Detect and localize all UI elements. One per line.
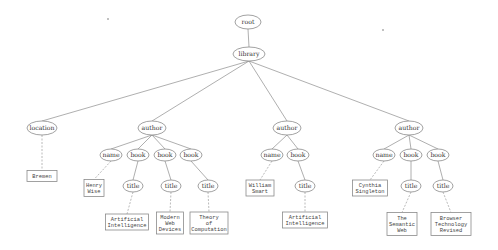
edge-author2-a2_book [287,135,298,149]
node-label: book [183,151,198,158]
value-node-v_a1_title3: TheoryofComputation [190,212,228,234]
edge-a3_book2-a3_title2 [438,161,443,180]
node-label: author [399,124,420,131]
node-label: book [290,151,305,158]
element-node-a3_name: name [373,149,395,161]
node-label: title [405,182,418,189]
node-label: library [238,50,260,58]
node-label: author [142,124,163,131]
edge-author1-a1_book3 [152,135,191,149]
element-node-a1_name: name [100,149,122,161]
value-text-line: Wise [88,189,101,195]
element-node-root: root [235,15,261,29]
edge-library-author3 [249,61,409,121]
node-label: title [165,182,178,189]
element-node-a3_title2: title [433,180,453,192]
value-node-v_a1_title2: ModernWebDevices [157,212,184,234]
value-edge-a1_title1-v_a1_title1 [127,192,133,214]
value-node-v_a3_title1: TheSemanticWeb [387,213,417,236]
value-text-line: William [249,183,272,189]
speck-dot [382,29,383,30]
value-text-line: Computation [191,227,227,233]
value-text-line: Smart [252,189,268,195]
edge-a1_book1-a1_title1 [133,161,138,180]
value-node-v_a2_name: WilliamSmart [246,180,274,196]
value-text-line: Technology [435,222,468,228]
element-node-a3_book2: book [427,149,449,161]
value-node-v_a1_name: HenryWise [84,180,104,197]
value-text-line: Semantic [389,222,415,228]
value-edge-a3_name-v_a3_name [370,161,384,180]
edge-a2_book-a2_title [298,161,305,180]
edge-root-library [248,29,249,47]
value-text-line: Web [397,228,407,234]
element-node-a2_title: title [295,180,315,192]
value-text-line: Bremen [32,174,51,180]
node-label: title [127,182,140,189]
element-node-author2: author [273,121,301,135]
value-text-line: Henry [86,183,103,189]
node-label: title [437,182,450,189]
value-node-v_a1_title1: ArtificialIntelligence [106,214,149,230]
element-node-library: library [233,47,265,61]
edge-author3-a3_book1 [409,135,411,149]
element-node-a1_book1: book [127,149,149,161]
element-node-location: location [27,121,57,135]
value-edge-a3_title1-v_a3_title1 [402,192,411,213]
value-text-line: Intelligence [108,223,147,229]
value-node-v_location: Bremen [27,171,57,182]
value-text-line: Artificial [289,215,321,221]
node-label: title [299,182,312,189]
element-node-a2_name: name [261,149,283,161]
value-text-line: Modern [160,215,179,221]
value-edge-a3_title2-v_a3_title2 [443,192,451,213]
element-node-a1_book3: book [180,149,202,161]
speck-dot [107,18,108,19]
edge-a1_book2-a1_title2 [165,161,171,180]
tree-svg: rootlibrarylocationauthorauthorauthornam… [0,0,498,250]
edge-library-location [42,61,249,121]
node-label: book [430,151,445,158]
value-text-line: of [206,221,212,227]
node-label: name [102,151,120,158]
edge-author2-a2_name [272,135,287,149]
value-edge-a2_name-v_a2_name [260,161,272,180]
value-text-line: Browser [440,216,463,222]
node-label: author [277,124,298,131]
node-label: book [130,151,145,158]
value-edge-a1_title2-v_a1_title2 [170,192,171,212]
value-text-line: Devices [159,227,182,233]
value-edge-a1_title3-v_a1_title3 [208,192,209,212]
value-text-line: The [397,216,407,222]
node-label: name [375,151,393,158]
value-text-line: Web [165,221,175,227]
edge-author1-a1_name [111,135,152,149]
edge-library-author2 [249,61,287,121]
element-node-a1_book2: book [154,149,176,161]
value-text-line: Revised [440,228,463,234]
value-node-v_a3_name: CynthiaSingleton [353,180,388,196]
value-node-v_a3_title2: BrowserTechnologyRevised [431,213,471,236]
value-text-line: Singleton [355,189,384,195]
node-label: root [242,18,255,25]
edge-author3-a3_book2 [409,135,438,149]
value-text-line: Theory [199,215,219,221]
node-label: location [29,124,54,131]
element-node-a1_title1: title [123,180,143,192]
edge-author3-a3_name [384,135,409,149]
node-label: name [263,151,281,158]
element-node-a1_title3: title [198,180,218,192]
element-node-a2_book: book [287,149,309,161]
value-text-line: Artificial [111,217,143,223]
element-node-a1_title2: title [161,180,181,192]
value-edge-a1_name-v_a1_name [94,161,111,180]
edge-a1_book3-a1_title3 [191,161,208,180]
element-node-author1: author [138,121,166,135]
value-node-v_a2_title: ArtificialIntelligence [283,212,328,228]
element-node-a3_title1: title [401,180,421,192]
edge-library-author1 [152,61,249,121]
value-text-line: Cynthia [359,183,382,189]
nodes-layer: rootlibrarylocationauthorauthorauthornam… [27,15,471,236]
node-label: book [403,151,418,158]
xml-tree-diagram: rootlibrarylocationauthorauthorauthornam… [0,0,498,250]
